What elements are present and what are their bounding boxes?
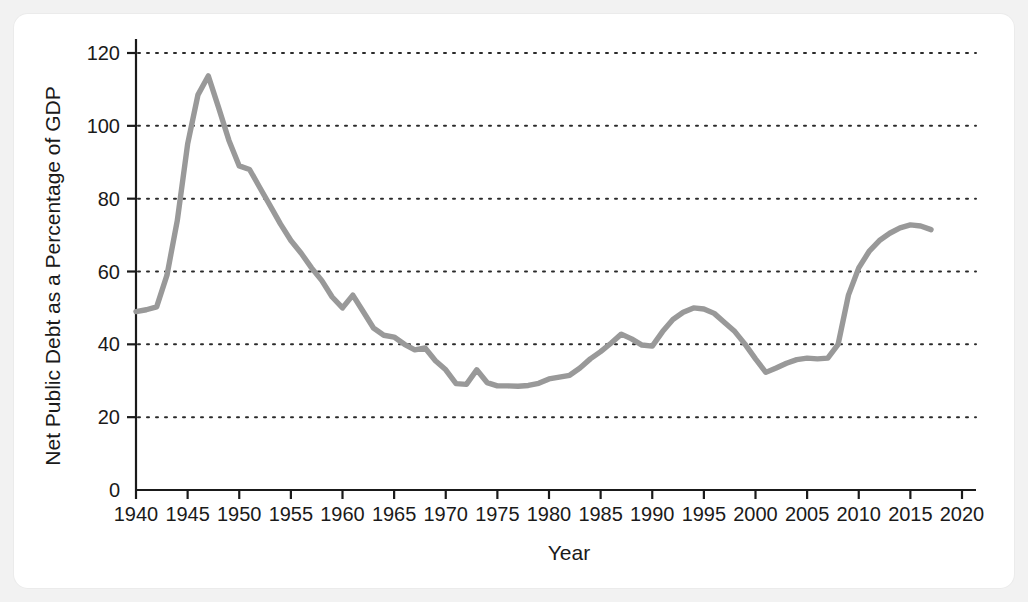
y-axis [127,39,136,490]
x-tick-label: 1955 [269,503,314,525]
y-tick-label: 80 [98,188,120,210]
x-tick-label: 1965 [372,503,417,525]
figure-card: 1940194519501955196019651970197519801985… [14,14,1014,588]
x-tick-label: 2015 [888,503,933,525]
data-series-group [136,76,931,386]
y-tick-label: 120 [87,42,120,64]
x-tick-label: 1970 [424,503,469,525]
x-tick-label: 1960 [320,503,365,525]
y-tick-labels: 020406080100120 [87,42,120,501]
x-tick-label: 1975 [475,503,520,525]
data-line [136,76,931,386]
x-tick-label: 1940 [114,503,159,525]
y-tick-label: 60 [98,261,120,283]
x-tick-label: 2000 [733,503,778,525]
x-tick-label: 1985 [578,503,623,525]
y-axis-title: Net Public Debt as a Percentage of GDP [41,86,64,465]
x-tick-label: 1945 [165,503,210,525]
y-tick-label: 100 [87,115,120,137]
y-tick-label: 0 [109,479,120,501]
line-chart: 1940194519501955196019651970197519801985… [14,14,1014,588]
x-tick-label: 1990 [630,503,675,525]
y-tick-label: 20 [98,406,120,428]
x-tick-label: 2010 [837,503,882,525]
x-tick-label: 2005 [785,503,830,525]
x-axis [136,490,976,499]
x-tick-label: 1995 [682,503,727,525]
gridlines [138,53,976,417]
x-tick-labels: 1940194519501955196019651970197519801985… [114,503,985,525]
x-axis-title: Year [548,541,590,564]
y-tick-label: 40 [98,333,120,355]
x-tick-label: 1950 [217,503,262,525]
x-tick-label: 1980 [527,503,572,525]
x-tick-label: 2020 [940,503,985,525]
